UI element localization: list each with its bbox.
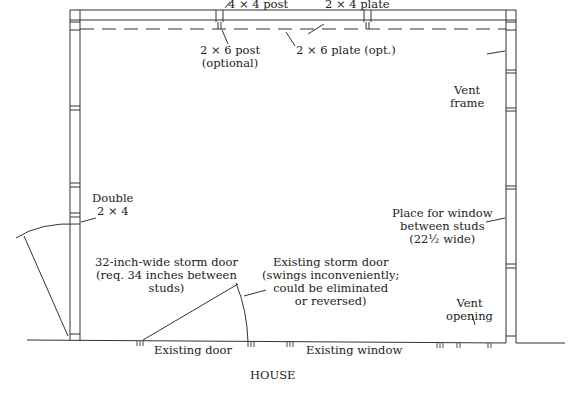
label-vent-frame: Vent frame [450,84,484,110]
house-wall-line [27,340,506,343]
label-2x6-plate: 2 × 6 plate (opt.) [296,44,396,57]
label-double-2x4: Double 2 × 4 [92,192,133,218]
label-2x6-post: 2 × 6 post (optional) [200,44,260,70]
label-existing-door: Existing door [154,344,232,357]
label-4x4-post: 4 × 4 post [228,0,288,11]
label-window-place: Place for window between studs (22½ wide… [392,207,493,246]
label-existing-window: Existing window [306,344,402,357]
framing-plan-diagram: 4 × 4 post 2 × 4 plate 2 × 6 post (optio… [0,0,576,393]
new-storm-door-leaf [24,236,68,336]
label-existing-storm-door: Existing storm door (swings inconvenient… [262,256,399,308]
label-2x4-plate: 2 × 4 plate [325,0,390,11]
framing-drawing [0,0,576,393]
label-vent-opening: Vent opening [446,297,493,323]
label-new-storm-door: 32-inch-wide storm door (req. 34 inches … [95,256,238,295]
label-house: HOUSE [250,369,295,382]
